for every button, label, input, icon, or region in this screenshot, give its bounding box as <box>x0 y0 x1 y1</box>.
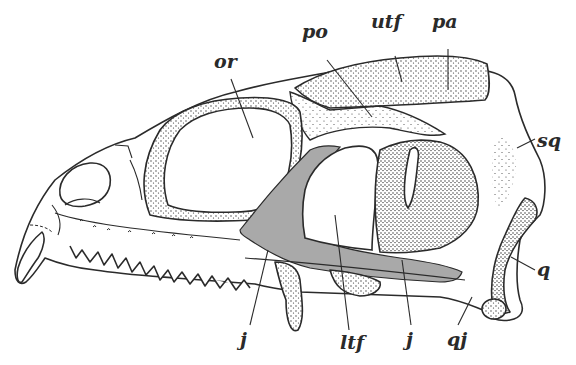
upper-temporal-fenestra <box>295 56 489 108</box>
label-upper-temporal-fenestra: utf <box>371 12 402 31</box>
label-quadratojugal: qj <box>447 330 467 349</box>
label-lower-temporal-fenestra: ltf <box>340 333 364 352</box>
label-squamosal: sq <box>537 131 561 150</box>
label-jugal-left: j <box>240 330 247 349</box>
label-quadrate: q <box>537 260 550 279</box>
skull-illustration <box>0 0 576 365</box>
label-parietal: pa <box>432 12 458 31</box>
ventral-process-left <box>275 262 302 331</box>
label-orbit: or <box>214 52 237 71</box>
label-jugal-right: j <box>406 330 413 349</box>
label-postorbital: po <box>302 22 328 41</box>
quadratojugal-knob <box>482 299 506 319</box>
